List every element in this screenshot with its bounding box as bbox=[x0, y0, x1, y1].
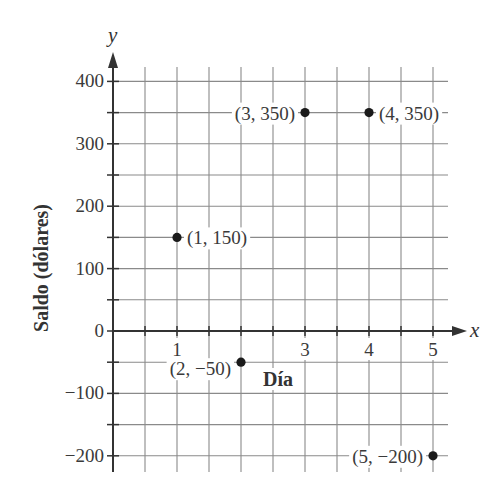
data-point: (3, 350) bbox=[232, 103, 310, 125]
x-tick-label: 3 bbox=[300, 339, 310, 360]
data-point: (2, −50) bbox=[167, 358, 246, 381]
x-tick-label: 4 bbox=[364, 339, 374, 360]
grid-lines bbox=[113, 67, 448, 472]
point-marker-icon bbox=[364, 108, 373, 117]
x-tick-label: 1 bbox=[172, 339, 182, 360]
point-label: (4, 350) bbox=[379, 103, 439, 125]
x-tick-label: 5 bbox=[428, 339, 438, 360]
scatter-chart: 4003002001000−100−2001345 (1, 150)(2, −5… bbox=[0, 0, 503, 493]
point-label: (5, −200) bbox=[352, 446, 423, 468]
point-marker-icon bbox=[428, 451, 437, 460]
y-tick-label: 0 bbox=[95, 320, 105, 341]
y-tick-label: 200 bbox=[76, 195, 105, 216]
y-tick-label: 100 bbox=[76, 258, 105, 279]
x-axis-title: Día bbox=[263, 368, 293, 390]
point-marker-icon bbox=[300, 108, 309, 117]
x-axis-arrow-icon bbox=[452, 326, 467, 336]
y-tick-label: 400 bbox=[76, 70, 105, 91]
y-tick-label: 300 bbox=[76, 133, 105, 154]
point-label: (3, 350) bbox=[235, 103, 295, 125]
point-marker-icon bbox=[236, 358, 245, 367]
y-tick-label: −200 bbox=[65, 445, 104, 466]
point-label: (1, 150) bbox=[187, 227, 247, 249]
data-point: (4, 350) bbox=[364, 103, 442, 125]
y-axis-variable: y bbox=[106, 23, 118, 47]
y-tick-label: −100 bbox=[65, 382, 104, 403]
y-axis-arrow-icon bbox=[108, 52, 118, 68]
x-axis-variable: x bbox=[469, 318, 480, 342]
point-marker-icon bbox=[172, 233, 181, 242]
y-axis-title: Saldo (dólares) bbox=[30, 204, 53, 332]
data-point: (5, −200) bbox=[349, 446, 437, 468]
data-point: (1, 150) bbox=[172, 227, 250, 249]
point-label: (2, −50) bbox=[170, 358, 231, 380]
